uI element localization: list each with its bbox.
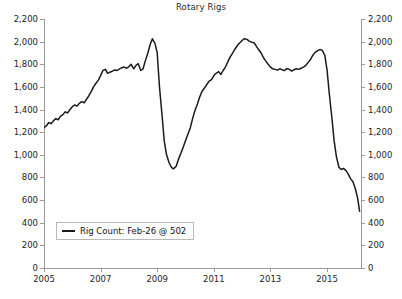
x-axis-label: 2011: [203, 274, 225, 284]
y-axis-label-right: 0: [368, 264, 373, 273]
x-axis-label: 2013: [260, 274, 282, 284]
rotary-rigs-chart: Rotary Rigs 02004006008001,0001,2001,400…: [0, 0, 402, 299]
y-axis-label-left: 600: [22, 196, 38, 205]
chart-legend: Rig Count: Feb-26 @ 502: [56, 222, 194, 240]
y-axis-label-right: 200: [368, 241, 384, 250]
y-axis-label-left: 800: [22, 173, 38, 182]
y-axis-label-right: 400: [368, 219, 384, 228]
y-axis-label-left: 400: [22, 219, 38, 228]
y-axis-label-right: 1,400: [368, 106, 392, 115]
y-axis-label-left: 1,200: [14, 128, 38, 137]
plot-area: 02004006008001,0001,2001,4001,6001,8002,…: [44, 19, 362, 269]
x-axis-label: 2009: [146, 274, 168, 284]
rig-count-line: [44, 39, 360, 211]
legend-label: Rig Count: Feb-26 @ 502: [80, 226, 186, 236]
y-axis-label-right: 600: [368, 196, 384, 205]
y-axis-label-right: 800: [368, 173, 384, 182]
y-axis-label-left: 1,000: [14, 151, 38, 160]
x-axis-label: 2005: [33, 274, 55, 284]
legend-line-swatch: [62, 230, 75, 232]
y-axis-label-left: 1,800: [14, 60, 38, 69]
y-axis-label-right: 1,000: [368, 151, 392, 160]
y-axis-label-left: 2,000: [14, 38, 38, 47]
y-axis-label-right: 1,800: [368, 60, 392, 69]
y-axis-label-left: 0: [33, 264, 38, 273]
y-axis-label-left: 1,600: [14, 83, 38, 92]
x-axis-label: 2015: [316, 274, 338, 284]
y-axis-label-left: 2,200: [14, 15, 38, 24]
chart-title: Rotary Rigs: [0, 2, 402, 12]
y-axis-label-right: 2,000: [368, 38, 392, 47]
y-axis-label-right: 1,600: [368, 83, 392, 92]
y-axis-label-left: 1,400: [14, 106, 38, 115]
x-axis-label: 2007: [90, 274, 112, 284]
y-axis-label-right: 2,200: [368, 15, 392, 24]
y-axis-label-left: 200: [22, 241, 38, 250]
y-axis-label-right: 1,200: [368, 128, 392, 137]
